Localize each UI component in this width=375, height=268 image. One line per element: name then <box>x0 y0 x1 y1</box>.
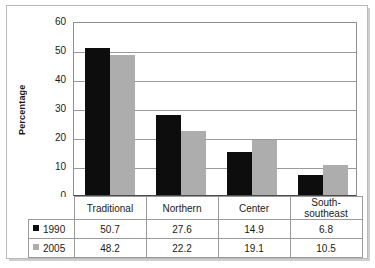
table-row-categories: TraditionalNorthernCenterSouth-southeast <box>29 197 363 220</box>
bar-1990-center <box>227 152 252 195</box>
figure-shadow-right <box>368 8 370 261</box>
legend-label: 2005 <box>43 243 65 254</box>
table-corner-cell <box>29 197 75 220</box>
bar-2005-traditional <box>110 55 135 195</box>
bar-1990-traditional <box>85 48 110 195</box>
bar-2005-center <box>252 140 277 195</box>
y-axis-title: Percentage <box>14 58 30 162</box>
bar-group <box>145 23 216 195</box>
category-header-cell: Traditional <box>74 197 146 220</box>
bar-group <box>216 23 287 195</box>
chart-figure: Percentage 6050403020100 TraditionalNort… <box>0 0 375 268</box>
table-row: 199050.727.614.96.8 <box>29 220 363 239</box>
value-cell: 6.8 <box>290 220 362 239</box>
legend-entry-1990: 1990 <box>29 220 75 239</box>
bar-group <box>287 23 358 195</box>
bar-1990-northern <box>156 115 181 195</box>
y-tick-label: 20 <box>38 133 66 143</box>
bar-1990-south-southeast <box>298 175 323 195</box>
value-cell: 22.2 <box>146 239 218 258</box>
value-cell: 19.1 <box>218 239 290 258</box>
legend-swatch-icon <box>33 225 39 231</box>
y-tick-label: 50 <box>38 46 66 56</box>
value-cell: 10.5 <box>290 239 362 258</box>
bar-group <box>74 23 145 195</box>
figure-shadow-bottom <box>9 259 370 261</box>
value-cell: 48.2 <box>74 239 146 258</box>
value-cell: 50.7 <box>74 220 146 239</box>
value-cell: 27.6 <box>146 220 218 239</box>
plot-area <box>73 22 357 196</box>
category-header-cell: South-southeast <box>290 197 362 220</box>
legend-entry-2005: 2005 <box>29 239 75 258</box>
bar-2005-south-southeast <box>323 165 348 195</box>
y-tick-label: 40 <box>38 75 66 85</box>
y-tick-label: 30 <box>38 104 66 114</box>
legend-swatch-icon <box>33 244 39 250</box>
y-tick-label: 60 <box>38 17 66 27</box>
table-row: 200548.222.219.110.5 <box>29 239 363 258</box>
value-cell: 14.9 <box>218 220 290 239</box>
data-table: TraditionalNorthernCenterSouth-southeast… <box>28 196 363 258</box>
bar-2005-northern <box>181 131 206 195</box>
y-tick-label: 10 <box>38 162 66 172</box>
category-header-cell: Northern <box>146 197 218 220</box>
legend-label: 1990 <box>43 224 65 235</box>
category-header-cell: Center <box>218 197 290 220</box>
